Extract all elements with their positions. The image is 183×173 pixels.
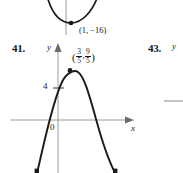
coord-y-numerator: 9	[85, 48, 91, 56]
figure-41: y x 4 0 (35,95)	[0, 40, 150, 173]
vertex-marker-top	[69, 21, 74, 26]
parabola-41-curve	[37, 71, 115, 173]
figure-43-partial	[150, 60, 183, 130]
answer-key-figure-page: (1, −16) 41. y x	[0, 0, 183, 173]
y-axis-label-43: y	[172, 41, 176, 51]
coord-x-denominator: 5	[76, 57, 82, 65]
endpoint-marker-left-41	[35, 169, 39, 173]
vertex-marker-41	[68, 68, 73, 73]
y-tick-label-4: 4	[43, 81, 48, 91]
vertex-coordinate-label-top: (1, −16)	[79, 25, 106, 35]
coord-open-paren: (	[72, 51, 76, 63]
coord-y-fraction: 95	[85, 48, 91, 65]
endpoint-marker-right-41	[113, 169, 117, 173]
vertex-coordinate-label-41: (35,95)	[72, 48, 95, 65]
coord-x-numerator: 3	[76, 48, 82, 56]
x-axis-label-41: x	[131, 123, 135, 133]
y-axis-label-41: y	[47, 42, 51, 52]
parabola-top-curve	[47, 0, 98, 23]
coord-y-denominator: 5	[85, 57, 91, 65]
coord-close-paren: )	[91, 51, 95, 63]
coord-x-fraction: 35	[76, 48, 82, 65]
figure-top-partial: (1, −16)	[0, 0, 183, 40]
problem-number-43: 43.	[148, 42, 161, 54]
origin-label-41: 0	[50, 122, 55, 132]
parabola-43-partial-svg	[150, 60, 183, 130]
y-axis-arrowhead-41	[54, 43, 61, 52]
